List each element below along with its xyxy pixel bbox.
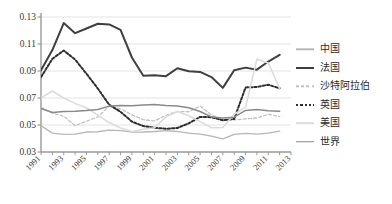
legend-swatch-uk-icon <box>296 100 314 110</box>
legend-label-saudi-arabia: 沙特阿拉伯 <box>320 81 370 91</box>
x-axis-tick-label: 2005 <box>182 153 201 172</box>
legend-swatch-usa-icon <box>296 118 314 128</box>
y-axis-tick-label: 0.11 <box>20 39 37 49</box>
legend-label-china: 中国 <box>320 44 340 54</box>
legend-item-world[interactable]: 世界 <box>296 133 392 152</box>
legend-item-uk[interactable]: 英国 <box>296 96 392 115</box>
x-axis-tick-label: 2003 <box>160 153 179 172</box>
y-axis-tick-label: 0.09 <box>19 66 36 76</box>
y-axis-tick-label: 0.07 <box>19 93 36 103</box>
legend-item-usa[interactable]: 美国 <box>296 114 392 133</box>
series-line <box>41 23 280 88</box>
x-axis-tick-label: 2011 <box>251 153 270 172</box>
y-axis-tick-label: 0.13 <box>19 12 36 22</box>
legend-label-uk: 英国 <box>320 100 340 110</box>
legend-item-china[interactable]: 中国 <box>296 40 392 59</box>
chart-legend: 中国 法国 沙特阿拉伯 英国 美国 世界 <box>296 40 392 151</box>
legend-swatch-saudi-arabia-icon <box>296 81 314 91</box>
x-axis-tick-label: 1993 <box>46 153 65 172</box>
x-axis-tick-label: 1995 <box>69 153 88 172</box>
legend-label-world: 世界 <box>320 137 340 147</box>
y-axis-tick-label: 0.05 <box>19 120 36 130</box>
x-axis-tick-label: 1999 <box>114 153 133 172</box>
legend-swatch-france-icon <box>296 63 314 73</box>
legend-label-france: 法国 <box>320 63 340 73</box>
series-line <box>41 50 280 128</box>
x-axis-tick-label: 1997 <box>92 153 111 172</box>
legend-swatch-world-icon <box>296 137 314 147</box>
x-axis-tick-label: 2009 <box>228 153 247 172</box>
x-axis-tick-label: 2013 <box>273 153 292 172</box>
series-line <box>41 104 280 118</box>
x-axis-tick-label: 2007 <box>205 153 224 172</box>
x-axis-tick-label: 2001 <box>137 153 156 172</box>
legend-item-france[interactable]: 法国 <box>296 59 392 78</box>
legend-label-usa: 美国 <box>320 118 340 128</box>
line-chart: 0.030.050.070.090.110.131991199319951997… <box>0 0 392 204</box>
series-line <box>41 59 280 131</box>
legend-swatch-china-icon <box>296 44 314 54</box>
legend-item-saudi-arabia[interactable]: 沙特阿拉伯 <box>296 77 392 96</box>
